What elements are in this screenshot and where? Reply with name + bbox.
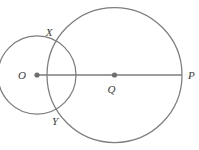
- geometry-figure: O Q P X Y: [0, 0, 199, 150]
- point-o-marker: [34, 72, 39, 77]
- label-q: Q: [108, 83, 116, 95]
- label-x: X: [45, 26, 54, 38]
- label-o: O: [18, 69, 26, 81]
- label-p: P: [187, 69, 195, 81]
- point-q-marker: [112, 72, 117, 77]
- geometry-canvas: O Q P X Y: [0, 0, 199, 150]
